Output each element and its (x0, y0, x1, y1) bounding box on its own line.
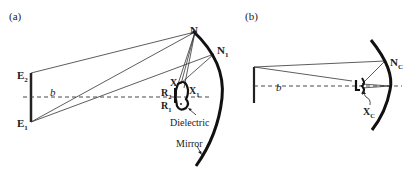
panel-a-label: (a) (9, 10, 22, 23)
point-E1: E1 (17, 117, 28, 132)
point-X1: X1 (189, 85, 199, 98)
point-R1: R1 (161, 100, 171, 113)
axis-label-b: b (50, 86, 56, 98)
point-XC: XC (363, 106, 375, 119)
point-X: X (170, 77, 178, 88)
panel-b-label: (b) (245, 10, 258, 23)
point-N1: N1 (217, 44, 229, 59)
dielectric-label: Dielectric (170, 117, 210, 128)
panel-b: (b) NC b XC (245, 10, 403, 130)
optics-diagram: (a) N N1 E2 E1 b X X1 R2 R1 (0, 0, 418, 177)
rays-b (254, 61, 390, 88)
point-N: N (190, 24, 198, 36)
axis-label-b2: b (276, 81, 282, 93)
point-E2: E2 (17, 69, 28, 84)
mirror-arrowhead (198, 151, 202, 155)
dielectric-dot (180, 103, 182, 105)
mirror-label: Mirror (176, 138, 203, 149)
dielectric-object (176, 82, 188, 110)
panel-a: (a) N N1 E2 E1 b X X1 R2 R1 (9, 10, 229, 166)
dielectric-b-edge (356, 80, 360, 90)
point-NC: NC (390, 56, 403, 71)
point-R2: R2 (161, 87, 171, 100)
